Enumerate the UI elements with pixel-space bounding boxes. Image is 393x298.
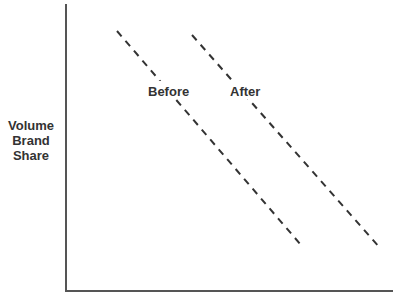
y-axis-label-line3: Share (13, 148, 49, 163)
before-line (117, 31, 301, 245)
y-axis-label-line2: Brand (12, 133, 50, 148)
demand-shift-diagram: Before After Volume Brand Share (0, 0, 393, 298)
y-axis-label-line1: Volume (8, 118, 54, 133)
after-label: After (230, 84, 260, 99)
after-line (192, 35, 380, 248)
before-label: Before (148, 84, 189, 99)
